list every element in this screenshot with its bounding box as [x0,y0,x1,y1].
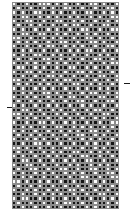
right-axis-tick [124,83,130,84]
figure-canvas [0,0,135,211]
matrix-cell [115,205,119,209]
left-axis-tick [7,107,12,108]
binary-matrix-heatmap [12,2,119,209]
